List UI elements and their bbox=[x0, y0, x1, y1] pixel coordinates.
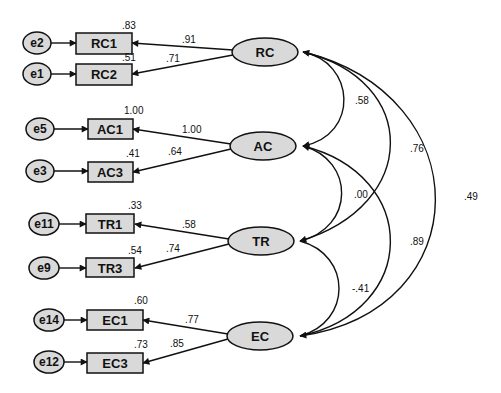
loading-label-ec3: .85 bbox=[170, 338, 184, 349]
latent-ec: EC bbox=[227, 322, 293, 350]
loading-label-ec1: .77 bbox=[185, 314, 199, 325]
loading-label-tr1: .58 bbox=[182, 219, 196, 230]
indicator-ec3: e12 EC3 .73 bbox=[34, 339, 148, 373]
cov-rc-tr bbox=[300, 52, 390, 241]
indicator-label-ec1: EC1 bbox=[102, 313, 127, 328]
r2-label-rc1: .83 bbox=[122, 20, 136, 31]
indicator-tr3: e9 TR3 .54 bbox=[29, 245, 142, 279]
error-label-e9: e9 bbox=[37, 261, 51, 275]
loading-label-rc2: .71 bbox=[166, 53, 180, 64]
loading-paths bbox=[132, 43, 233, 363]
error-label-e12: e12 bbox=[39, 355, 59, 369]
latent-label-ac: AC bbox=[254, 139, 273, 154]
indicator-ac1: e5 AC1 1.00 bbox=[26, 105, 144, 140]
r2-label-ec1: .60 bbox=[134, 295, 148, 306]
cov-label-rc-tr: .76 bbox=[410, 143, 424, 154]
indicator-label-ac1: AC1 bbox=[97, 122, 123, 137]
loading-label-ac1: 1.00 bbox=[182, 124, 202, 135]
latent-tr: TR bbox=[228, 227, 294, 255]
loading-label-ac3: .64 bbox=[168, 146, 182, 157]
r2-label-tr3: .54 bbox=[128, 245, 142, 256]
loading-label-tr3: .74 bbox=[166, 243, 180, 254]
latent-ac: AC bbox=[230, 132, 296, 160]
error-label-e1: e1 bbox=[30, 67, 44, 81]
error-label-e3: e3 bbox=[33, 164, 47, 178]
r2-label-tr1: .33 bbox=[128, 200, 142, 211]
error-label-e11: e11 bbox=[34, 217, 54, 231]
loading-label-rc1: .91 bbox=[182, 34, 196, 45]
r2-label-ec3: .73 bbox=[134, 339, 148, 350]
indicator-label-ac3: AC3 bbox=[97, 165, 123, 180]
cov-tr-ec bbox=[300, 241, 339, 336]
indicator-label-rc2: RC2 bbox=[91, 67, 117, 82]
cov-label-ac-tr: .00 bbox=[354, 189, 368, 200]
sem-diagram: .58 .76 .49 .00 .89 -.41 .91 .71 1.00 .6… bbox=[0, 0, 501, 393]
cov-rc-ac bbox=[303, 52, 344, 146]
indicator-tr1: e11 TR1 .33 bbox=[29, 200, 142, 235]
indicator-label-ec3: EC3 bbox=[102, 356, 127, 371]
cov-label-ac-ec: .89 bbox=[410, 236, 424, 247]
indicator-label-tr3: TR3 bbox=[98, 261, 123, 276]
error-label-e2: e2 bbox=[30, 36, 44, 50]
latent-rc: RC bbox=[232, 38, 298, 66]
latent-label-ec: EC bbox=[251, 329, 270, 344]
latent-label-tr: TR bbox=[252, 234, 270, 249]
indicator-label-tr1: TR1 bbox=[98, 217, 123, 232]
cov-label-rc-ec: .49 bbox=[464, 191, 478, 202]
r2-label-rc2: .51 bbox=[122, 52, 136, 63]
latent-label-rc: RC bbox=[256, 45, 275, 60]
indicator-rc2: e1 RC2 .51 bbox=[23, 52, 136, 85]
cov-label-rc-ac: .58 bbox=[355, 95, 369, 106]
cov-label-tr-ec: -.41 bbox=[352, 283, 370, 294]
indicator-label-rc1: RC1 bbox=[91, 36, 117, 51]
indicator-rc1: e2 RC1 .83 bbox=[23, 20, 136, 54]
r2-label-ac3: .41 bbox=[126, 148, 140, 159]
indicator-ac3: e3 AC3 .41 bbox=[26, 148, 140, 182]
error-label-e14: e14 bbox=[39, 313, 59, 327]
error-label-e5: e5 bbox=[33, 122, 47, 136]
indicator-ec1: e14 EC1 .60 bbox=[34, 295, 148, 331]
r2-label-ac1: 1.00 bbox=[124, 105, 144, 116]
